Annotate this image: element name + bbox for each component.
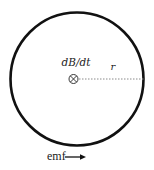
radius-label: r xyxy=(111,61,117,72)
field-rate-label: dB/dt xyxy=(62,56,92,68)
right-arrow-icon xyxy=(65,154,86,159)
into-page-icon xyxy=(69,75,78,84)
emf-label: emf xyxy=(47,149,66,163)
conducting-loop xyxy=(11,13,144,146)
induced-emf-diagram: dB/dt r emf xyxy=(0,0,154,170)
